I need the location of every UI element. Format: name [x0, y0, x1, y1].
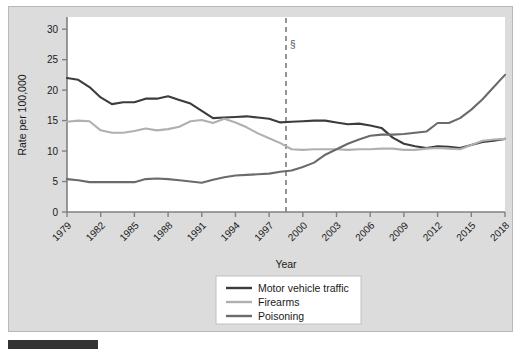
x-tick-label: 1994	[218, 219, 242, 243]
y-tick-label: 20	[47, 85, 59, 96]
y-tick-label: 5	[52, 176, 58, 187]
x-tick-label: 1982	[84, 219, 108, 243]
figure-container: 051015202530 197919821985198819911994199…	[0, 0, 523, 349]
legend-label: Poisoning	[258, 310, 304, 322]
y-axis-title: Rate per 100,000	[16, 74, 28, 155]
y-tick-label: 10	[47, 146, 59, 157]
x-tick-label: 2009	[387, 219, 411, 243]
line-chart: 051015202530 197919821985198819911994199…	[0, 0, 523, 349]
y-tick-label: 15	[47, 115, 59, 126]
y-tick-label: 0	[52, 207, 58, 218]
x-tick-label: 1988	[151, 219, 175, 243]
y-tick-label: 30	[47, 24, 59, 35]
section-marker-label: §	[290, 39, 296, 50]
x-tick-label: 2018	[488, 219, 512, 243]
x-axis-title: Year	[275, 258, 297, 270]
x-tick-label: 2015	[454, 219, 478, 243]
y-axis-tick-labels: 051015202530	[47, 24, 59, 218]
y-tick-label: 25	[47, 54, 59, 65]
x-tick-label: 1979	[50, 219, 74, 243]
x-tick-label: 2012	[421, 219, 445, 243]
x-tick-label: 1991	[185, 219, 209, 243]
legend-label: Motor vehicle traffic	[258, 282, 349, 294]
x-tick-label: 2000	[286, 219, 310, 243]
x-tick-label: 2006	[353, 219, 377, 243]
footer-bar	[8, 340, 98, 349]
x-axis-tick-labels: 1979198219851988199119941997200020032006…	[50, 219, 512, 243]
x-tick-label: 2003	[319, 219, 343, 243]
legend-label: Firearms	[258, 296, 299, 308]
x-tick-label: 1997	[252, 219, 276, 243]
x-tick-label: 1985	[117, 219, 141, 243]
